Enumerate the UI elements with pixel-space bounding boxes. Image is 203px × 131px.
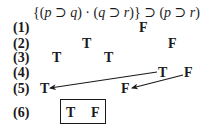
arrows	[0, 0, 203, 131]
arrow-line	[132, 75, 183, 88]
